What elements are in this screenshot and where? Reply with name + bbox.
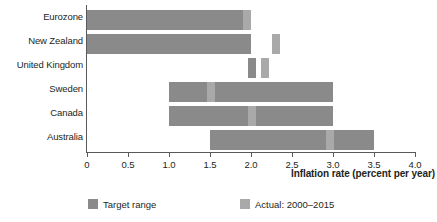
x-tick-5 [292, 152, 293, 157]
x-tick-label-3: 1.5 [203, 159, 216, 170]
x-tick-6 [333, 152, 334, 157]
x-tick-0 [87, 152, 88, 157]
x-tick-7 [374, 152, 375, 157]
legend-swatch-target-range [88, 199, 98, 209]
category-axis-labels: Eurozone New Zealand United Kingdom Swed… [0, 0, 83, 152]
legend-item-actual: Actual: 2000–2015 [240, 197, 334, 211]
bar-row-united-kingdom [87, 58, 415, 78]
bar-target-range [248, 58, 256, 78]
bar-actual-marker [326, 130, 334, 150]
bar-row-eurozone [87, 10, 415, 30]
x-tick-label-0: 0 [84, 159, 89, 170]
bar-target-range [169, 82, 333, 102]
x-tick-label-4: 2.0 [244, 159, 257, 170]
bar-row-canada [87, 106, 415, 126]
inflation-rate-chart: Eurozone New Zealand United Kingdom Swed… [0, 0, 437, 222]
bar-actual-marker [261, 58, 269, 78]
category-label-united-kingdom: United Kingdom [0, 59, 83, 70]
x-tick-8 [415, 152, 416, 157]
x-tick-4 [251, 152, 252, 157]
x-tick-3 [210, 152, 211, 157]
x-tick-label-1: 0.5 [121, 159, 134, 170]
bar-row-australia [87, 130, 415, 150]
legend-item-target-range: Target range [88, 197, 156, 211]
bar-actual-marker [248, 106, 256, 126]
x-axis-title: Inflation rate (percent per year) [291, 168, 435, 179]
legend-label-actual: Actual: 2000–2015 [255, 199, 334, 210]
bar-actual-marker [207, 82, 215, 102]
bar-target-range [210, 130, 374, 150]
legend-swatch-actual [240, 199, 250, 209]
bar-actual-marker [272, 34, 280, 54]
x-tick-label-2: 1.0 [162, 159, 175, 170]
bar-row-sweden [87, 82, 415, 102]
category-label-canada: Canada [0, 107, 83, 118]
category-label-new-zealand: New Zealand [0, 35, 83, 46]
category-label-sweden: Sweden [0, 83, 83, 94]
legend-label-target-range: Target range [103, 199, 156, 210]
plot-area: 00.51.01.52.02.53.03.54.0 [87, 5, 415, 152]
category-label-eurozone: Eurozone [0, 11, 83, 22]
bar-row-new-zealand [87, 34, 415, 54]
category-label-australia: Australia [0, 131, 83, 142]
bar-target-range [87, 34, 251, 54]
x-tick-1 [128, 152, 129, 157]
bar-target-range [87, 10, 251, 30]
x-tick-2 [169, 152, 170, 157]
bar-actual-marker [243, 10, 251, 30]
